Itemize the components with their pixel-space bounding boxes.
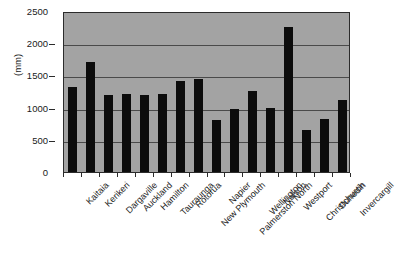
bar [266,108,275,172]
x-tick-mark [296,173,297,177]
x-tick-mark [242,173,243,177]
bar [176,81,185,172]
y-tick-mark [49,109,55,110]
bar [140,95,149,172]
bar [104,95,113,172]
bar [68,87,77,172]
x-tick-mark [189,173,190,177]
bar [320,119,329,172]
bar [230,109,239,172]
bar [284,27,293,172]
bar [194,79,203,172]
bar [122,94,131,172]
y-tick-label: 0 [43,168,48,178]
x-tick-mark [99,173,100,177]
x-tick-mark [314,173,315,177]
plot-area [63,12,350,173]
y-tick-mark [49,141,55,142]
y-tick-mark [49,44,55,45]
x-tick-mark [153,173,154,177]
y-axis: (mm) 05001000150020002500 [0,0,63,174]
bars-layer [64,13,349,172]
y-tick-label: 500 [32,136,48,146]
x-tick-mark [278,173,279,177]
bar [248,91,257,172]
y-tick-label: 1500 [27,71,48,81]
bar [212,120,221,172]
y-axis-title: (mm) [12,54,23,76]
bar [86,62,95,172]
y-tick-mark [49,76,55,77]
x-tick-mark [135,173,136,177]
x-tick-mark [350,173,351,177]
x-tick-mark [81,173,82,177]
x-tick-mark [63,173,64,177]
y-tick-label: 2000 [27,39,48,49]
x-tick-mark [171,173,172,177]
x-tick-mark [117,173,118,177]
x-tick-mark [224,173,225,177]
x-tick-mark [332,173,333,177]
y-tick-label: 1000 [27,104,48,114]
x-axis: KaitaiaKerikeriDargavilleAucklandHamilto… [63,173,351,261]
bar [338,100,347,172]
x-tick-mark [207,173,208,177]
bar [302,130,311,172]
x-tick-mark [260,173,261,177]
bar [158,94,167,172]
y-tick-label: 2500 [27,7,48,17]
